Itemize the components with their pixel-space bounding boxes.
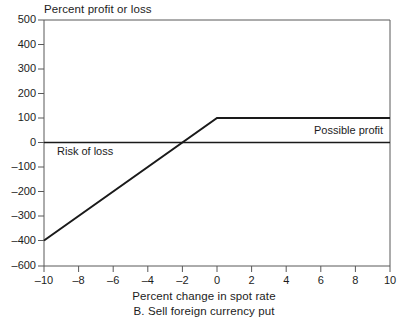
x-tick-label: –10	[29, 274, 59, 286]
y-tick-label: –600	[2, 259, 36, 271]
payoff-line	[44, 118, 390, 241]
x-tick-label: 2	[237, 274, 267, 286]
x-tick-label: 6	[306, 274, 336, 286]
x-axis-title: Percent change in spot rate	[0, 290, 408, 302]
x-tick-label: –8	[64, 274, 94, 286]
y-tick-label: 500	[2, 13, 36, 25]
x-tick-label: –4	[133, 274, 163, 286]
y-tick-label: 400	[2, 38, 36, 50]
y-tick-label: –100	[2, 160, 36, 172]
y-axis-ticks	[38, 20, 44, 266]
x-tick-label: 10	[375, 274, 405, 286]
y-tick-label: 200	[2, 87, 36, 99]
y-tick-label: 300	[2, 62, 36, 74]
y-tick-label: 100	[2, 111, 36, 123]
x-tick-label: 8	[340, 274, 370, 286]
y-tick-label: –200	[2, 185, 36, 197]
annotation-risk-of-loss: Risk of loss	[55, 145, 115, 157]
x-tick-label: –6	[98, 274, 128, 286]
y-tick-label: –300	[2, 209, 36, 221]
figure-caption: B. Sell foreign currency put	[0, 305, 408, 317]
x-tick-label: 0	[202, 274, 232, 286]
y-tick-label: 0	[2, 136, 36, 148]
x-tick-label: 4	[271, 274, 301, 286]
chart-figure: Percent profit or loss	[0, 0, 408, 324]
x-axis-ticks	[44, 266, 390, 272]
x-tick-label: –2	[167, 274, 197, 286]
annotation-possible-profit: Possible profit	[312, 124, 385, 136]
y-tick-label: –400	[2, 234, 36, 246]
